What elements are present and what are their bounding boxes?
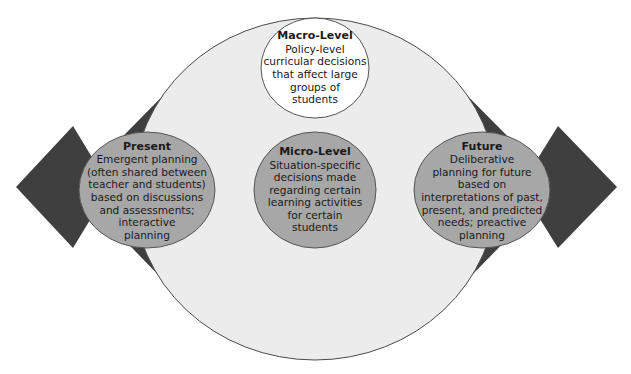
present-body: Emergent planning (often shared between …: [87, 153, 207, 241]
micro-body: Situation-specific decisions made regard…: [268, 159, 362, 235]
present-title: Present: [123, 141, 171, 154]
micro-title: Micro-Level: [279, 146, 351, 159]
micro-node: Micro-Level Situation-specific decisions…: [250, 140, 380, 240]
macro-body: Policy-level curricular decisions that a…: [264, 43, 367, 106]
future-node: Future Deliberative planning for future …: [412, 136, 552, 246]
future-body: Deliberative planning for future based o…: [421, 153, 543, 241]
future-title: Future: [462, 141, 503, 154]
present-node: Present Emergent planning (often shared …: [77, 136, 217, 246]
macro-node: Macro-Level Policy-level curricular deci…: [255, 20, 375, 116]
macro-title: Macro-Level: [277, 30, 352, 43]
